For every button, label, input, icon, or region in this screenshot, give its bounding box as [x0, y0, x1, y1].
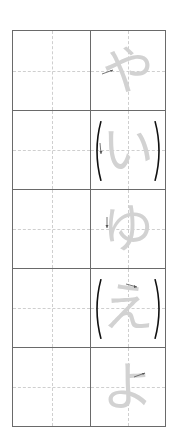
stroke-direction-arrow-icon [104, 215, 110, 229]
practice-cell[interactable] [13, 269, 91, 347]
model-cell: い [91, 111, 165, 189]
guide-line [13, 308, 90, 309]
stroke-direction-arrow-icon [125, 275, 139, 283]
practice-row-yo: よ [13, 347, 165, 426]
model-cell: や [91, 31, 165, 110]
practice-cell[interactable] [13, 348, 91, 426]
model-cell: よ [91, 348, 165, 426]
guide-line [13, 387, 90, 388]
kana-practice-sheet: や い ゆ え [12, 30, 166, 427]
model-kana: ゆ [91, 190, 165, 268]
right-paren-icon [153, 119, 163, 183]
right-paren-icon [153, 277, 163, 341]
left-paren-icon [93, 277, 103, 341]
stroke-direction-arrow-icon [133, 364, 147, 372]
guide-line [13, 150, 90, 151]
practice-row-i: い [13, 110, 165, 189]
guide-line [13, 71, 90, 72]
model-cell: ゆ [91, 190, 165, 268]
guide-line [13, 229, 90, 230]
stroke-direction-arrow-icon [101, 61, 115, 69]
practice-row-e: え [13, 268, 165, 347]
practice-row-yu: ゆ [13, 189, 165, 268]
model-kana: よ [91, 348, 165, 426]
practice-cell[interactable] [13, 111, 91, 189]
practice-row-ya: や [13, 31, 165, 110]
model-cell: え [91, 269, 165, 347]
stroke-direction-arrow-icon [98, 141, 104, 155]
practice-cell[interactable] [13, 190, 91, 268]
practice-cell[interactable] [13, 31, 91, 110]
